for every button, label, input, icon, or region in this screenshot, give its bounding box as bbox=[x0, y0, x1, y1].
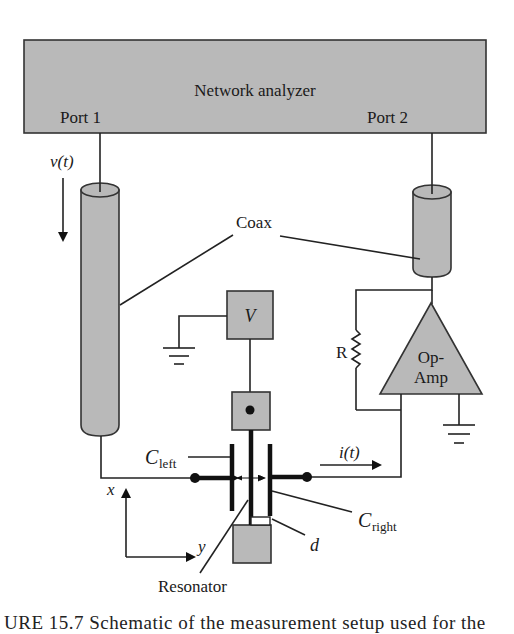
opamp-label-line2: Amp bbox=[414, 368, 448, 387]
coax-leader-right bbox=[280, 236, 420, 259]
bias-source-box: V bbox=[227, 291, 273, 339]
network-analyzer-box: Network analyzer Port 1 Port 2 bbox=[24, 40, 486, 133]
capacitor-left-label: C left bbox=[145, 446, 230, 471]
resistor-r: R bbox=[336, 330, 360, 410]
resistor-label: R bbox=[336, 343, 348, 362]
ground-icon-left bbox=[163, 348, 195, 364]
gap-d-region bbox=[251, 517, 270, 525]
y-axis-label: y bbox=[196, 537, 206, 556]
voltage-signal-label: v(t) bbox=[50, 152, 74, 171]
svg-text:right: right bbox=[372, 519, 397, 534]
svg-text:C: C bbox=[358, 509, 372, 531]
coax-leader-left bbox=[120, 235, 233, 305]
ground-icon-right bbox=[443, 394, 475, 443]
current-signal-label: i(t) bbox=[339, 443, 360, 462]
coordinate-axes: x y bbox=[106, 480, 206, 557]
svg-text:left: left bbox=[159, 456, 177, 471]
right-coax-cylinder bbox=[413, 185, 451, 277]
svg-text:C: C bbox=[145, 446, 159, 468]
network-analyzer-title: Network analyzer bbox=[194, 81, 316, 100]
resonator-label: Resonator bbox=[158, 577, 227, 596]
opamp-label-line1: Op- bbox=[418, 348, 445, 367]
bottom-anchor-block bbox=[233, 525, 271, 563]
coax-label: Coax bbox=[236, 213, 272, 232]
port2-label: Port 2 bbox=[367, 108, 408, 127]
bias-ground-wire bbox=[179, 316, 227, 348]
figure-caption: URE 15.7 Schematic of the measurement se… bbox=[4, 612, 486, 634]
op-amp: Op- Amp bbox=[380, 303, 482, 394]
right-junction-dot bbox=[302, 472, 312, 482]
gap-d-label: d bbox=[272, 519, 320, 555]
top-anchor-block bbox=[232, 392, 270, 430]
svg-text:d: d bbox=[310, 535, 320, 555]
port1-label: Port 1 bbox=[60, 108, 101, 127]
left-junction-dot bbox=[190, 473, 200, 483]
left-coax-cylinder bbox=[81, 183, 119, 436]
x-axis-label: x bbox=[106, 480, 115, 499]
